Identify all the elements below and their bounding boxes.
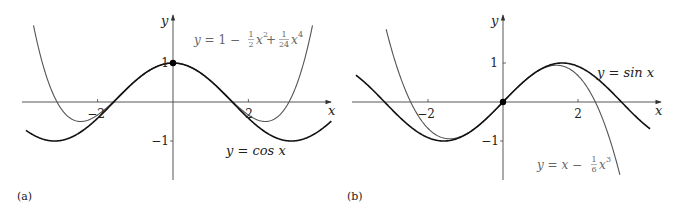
svg-text:x: x <box>291 33 298 47</box>
point-origin <box>500 99 506 105</box>
panel-b: −2 2 1 −1 x y y = sin x y = x − 1 6 x 3 … <box>347 13 663 203</box>
svg-text:y = x −: y = x − <box>536 158 582 172</box>
svg-text:6: 6 <box>591 165 596 174</box>
svg-text:24: 24 <box>279 40 289 49</box>
label-cos: y = cos x <box>225 143 286 158</box>
svg-text:3: 3 <box>606 155 611 164</box>
tick-label-b-yneg1: −1 <box>481 134 499 148</box>
tick-label-b-neg2: −2 <box>417 107 435 121</box>
svg-text:x: x <box>599 158 606 172</box>
svg-text:2: 2 <box>248 40 253 49</box>
svg-text:1: 1 <box>591 155 596 164</box>
caption-a: (a) <box>17 190 32 203</box>
tick-label-a-yneg1: −1 <box>151 134 169 148</box>
panel-a: −2 2 1 −1 x y y = cos x y = 1 − 1 2 x 2 … <box>17 13 336 203</box>
svg-text:x: x <box>256 33 263 47</box>
svg-text:1: 1 <box>281 30 286 39</box>
svg-text:y = 1 −: y = 1 − <box>193 33 240 47</box>
label-sin: y = sin x <box>596 65 655 80</box>
x-axis-label-a: x <box>328 103 336 118</box>
x-axis-label-b: x <box>655 103 663 118</box>
caption-b: (b) <box>347 190 363 203</box>
svg-text:+: + <box>266 33 276 47</box>
tick-label-a-pos2: 2 <box>245 107 253 121</box>
tick-label-b-pos2: 2 <box>574 107 582 121</box>
label-taylor-sin: y = x − 1 6 x 3 <box>536 155 611 174</box>
tick-label-b-y1: 1 <box>490 56 498 70</box>
y-axis-label-b: y <box>490 13 499 28</box>
svg-text:4: 4 <box>298 30 303 39</box>
tick-label-a-neg2: −2 <box>87 107 105 121</box>
figure: −2 2 1 −1 x y y = cos x y = 1 − 1 2 x 2 … <box>0 0 679 212</box>
svg-text:1: 1 <box>248 30 253 39</box>
label-taylor-cos: y = 1 − 1 2 x 2 + 1 24 x 4 <box>193 30 303 49</box>
point-0-1 <box>170 60 176 66</box>
tick-label-a-y1: 1 <box>161 56 169 70</box>
y-axis-label-a: y <box>160 13 169 28</box>
